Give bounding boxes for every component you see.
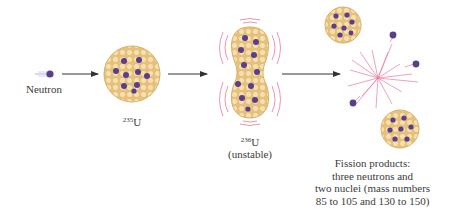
u235-label: 235U — [110, 114, 154, 128]
u235-symbol: U — [133, 116, 141, 128]
u236-note: (unstable) — [222, 148, 278, 160]
daughter-nucleus-2 — [381, 110, 419, 148]
incoming-neutron — [35, 70, 54, 77]
caption-line-3: two nuclei (mass numbers — [305, 182, 440, 195]
u236-nucleus — [220, 19, 281, 126]
u236-label: 236U (unstable) — [222, 134, 278, 160]
caption-line-2: three neutrons and — [305, 170, 440, 183]
u235-mass-number: 235 — [123, 116, 134, 124]
fission-products-caption: Fission products: three neutrons and two… — [305, 157, 440, 207]
daughter-nucleus-1 — [325, 7, 361, 43]
caption-line-4: 85 to 105 and 130 to 150) — [305, 195, 440, 208]
u236-symbol: U — [251, 136, 259, 148]
emitted-neutrons — [350, 32, 420, 107]
neutron-label-text: Neutron — [26, 83, 62, 95]
u236-mass-number: 236 — [241, 136, 252, 144]
u235-nucleus — [104, 46, 160, 102]
fission-burst — [348, 44, 418, 108]
neutron-label: Neutron — [14, 83, 74, 95]
caption-line-1: Fission products: — [305, 157, 440, 170]
